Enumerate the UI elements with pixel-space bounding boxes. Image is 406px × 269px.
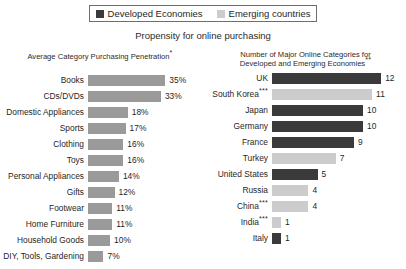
bar	[88, 203, 112, 214]
chart-panel-purchasing-penetration: Average Category Purchasing Penetration*…	[0, 50, 200, 264]
bar-track: 10	[272, 121, 406, 132]
bar-row-label: India***	[205, 217, 272, 227]
legend-label-developed: Developed Economies	[108, 9, 203, 19]
bar-track: 7%	[88, 251, 200, 262]
bar-row-label: DIY, Tools, Gardening	[0, 251, 88, 261]
bar-row-label: CDs/DVDs	[0, 91, 88, 101]
bar-value-label: 33%	[161, 91, 182, 101]
bar-row-label: Japan	[205, 105, 272, 115]
bar-row: Books35%	[0, 72, 200, 88]
bar	[88, 155, 123, 166]
bar-row-label-footnote-marker: ***	[259, 199, 268, 206]
bar	[272, 169, 318, 180]
panel-header-footnote-marker: *	[170, 49, 173, 56]
chart-main-title: Propensity for online purchasing	[0, 30, 406, 41]
bar-row: China***4	[205, 198, 406, 214]
bar-row: United States5	[205, 166, 406, 182]
bar-row: India***1	[205, 214, 406, 230]
bar	[272, 217, 281, 228]
legend-entry-emerging: Emerging countries	[217, 9, 311, 19]
bar-track: 1	[272, 217, 406, 228]
bar	[272, 105, 363, 116]
bar-track: 33%	[88, 91, 200, 102]
panel-header-text: Average Category Purchasing Penetration	[27, 52, 169, 61]
bar-track: 16%	[88, 139, 200, 150]
bar-row: Gifts12%	[0, 184, 200, 200]
bar-track: 4	[272, 201, 406, 212]
bar-row: Toys16%	[0, 152, 200, 168]
bar-track: 10%	[88, 235, 200, 246]
bar-track: 11%	[88, 219, 200, 230]
bar-row: Clothing16%	[0, 136, 200, 152]
bar-row: Germany10	[205, 118, 406, 134]
bar-value-label: 7	[336, 153, 345, 163]
bar-row: Sports17%	[0, 120, 200, 136]
bar-value-label: 1	[281, 217, 290, 227]
bar-track: 9	[272, 137, 406, 148]
bar	[88, 91, 161, 102]
bar-row: CDs/DVDs33%	[0, 88, 200, 104]
bar-track: 10	[272, 105, 406, 116]
bar-row-label: Germany	[205, 121, 272, 131]
bar-track: 1	[272, 233, 406, 244]
bar-value-label: 5	[318, 169, 327, 179]
bar-value-label: 11%	[112, 219, 132, 229]
bar-track: 16%	[88, 155, 200, 166]
legend-swatch-developed-icon	[96, 10, 104, 18]
bar-value-label: 35%	[165, 75, 186, 85]
bar-row: South Korea***11	[205, 86, 406, 102]
panel-header-line2: Developed and Emerging Economies	[240, 59, 365, 68]
legend-swatch-emerging-icon	[217, 10, 225, 18]
bar-row: Italy1	[205, 230, 406, 246]
bar-track: 7	[272, 153, 406, 164]
bar-row-label: Clothing	[0, 139, 88, 149]
bar	[88, 75, 165, 86]
bar-row-label: Toys	[0, 155, 88, 165]
bar-row-label: South Korea***	[205, 89, 272, 99]
panel-header-purchasing-penetration: Average Category Purchasing Penetration*	[0, 50, 200, 72]
bar-value-label: 4	[308, 185, 317, 195]
bar-row-label: France	[205, 137, 272, 147]
bar-track: 11	[272, 89, 406, 100]
bar	[88, 171, 119, 182]
bar-row: UK12	[205, 70, 406, 86]
bar	[272, 185, 308, 196]
bar-row-label: Italy	[205, 233, 272, 243]
chart-legend: Developed Economies Emerging countries	[89, 5, 317, 22]
bar-row-label: Books	[0, 75, 88, 85]
bar	[272, 137, 354, 148]
bar-value-label: 9	[354, 137, 363, 147]
bar-track: 18%	[88, 107, 200, 118]
bar-row-label: Home Furniture	[0, 219, 88, 229]
bar	[88, 251, 103, 262]
panel-header-line1: Number of Major Online Categories for	[240, 50, 370, 59]
bar	[272, 233, 281, 244]
bar-value-label: 12	[381, 73, 394, 83]
bar	[88, 219, 112, 230]
bar	[88, 123, 126, 134]
bar-row: Home Furniture11%	[0, 216, 200, 232]
bar-value-label: 11	[372, 89, 385, 99]
bar-track: 11%	[88, 203, 200, 214]
bar-row-label: Domestic Appliances	[0, 107, 88, 117]
bar-row: DIY, Tools, Gardening7%	[0, 248, 200, 264]
bar-value-label: 18%	[128, 107, 149, 117]
bar	[88, 107, 128, 118]
bar-row-label: Personal Appliances	[0, 171, 88, 181]
panel-header-major-online-categories: Number of Major Online Categories for De…	[205, 50, 406, 70]
bar-row: Domestic Appliances18%	[0, 104, 200, 120]
bar-row-label: Footwear	[0, 203, 88, 213]
bar-row-label-footnote-marker: ***	[259, 215, 268, 222]
legend-label-emerging: Emerging countries	[229, 9, 311, 19]
bar-row-label: Household Goods	[0, 235, 88, 245]
bar-value-label: 11%	[112, 203, 132, 213]
bar-row: France9	[205, 134, 406, 150]
bar-row-label: Russia	[205, 185, 272, 195]
bar-row-label: China***	[205, 201, 272, 211]
bar-value-label: 7%	[103, 251, 119, 261]
bar-track: 5	[272, 169, 406, 180]
bar-row: Russia4	[205, 182, 406, 198]
bar-track: 14%	[88, 171, 200, 182]
bar	[272, 73, 381, 84]
bar	[88, 187, 115, 198]
